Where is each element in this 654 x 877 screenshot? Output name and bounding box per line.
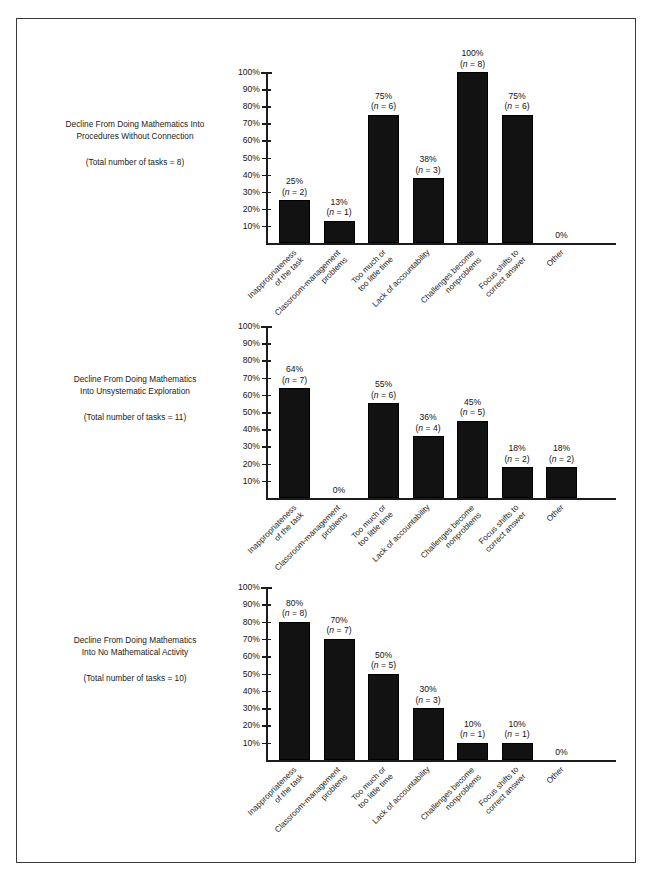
y-axis-tick — [262, 464, 271, 466]
y-axis-tick-label: 30% — [243, 188, 260, 197]
bar — [457, 743, 488, 760]
bar — [324, 221, 355, 243]
bar-percent: 100% — [441, 48, 505, 59]
chart-title-line: Decline From Doing Mathematics — [30, 373, 240, 385]
y-axis-tick-label: 30% — [243, 442, 260, 451]
bar-count: (n = 8) — [441, 59, 505, 70]
y-axis-tick — [262, 446, 271, 448]
bar-count: (n = 7) — [263, 375, 327, 386]
y-axis-tick-label: 100% — [238, 68, 260, 77]
y-axis-tick — [262, 743, 271, 745]
bar — [279, 388, 310, 498]
y-axis-tick — [262, 209, 271, 211]
x-axis-line — [266, 498, 616, 500]
y-axis-tick-label: 90% — [243, 600, 260, 609]
y-axis-tick — [262, 412, 271, 414]
bar — [457, 421, 488, 498]
bar-value-label: 38%(n = 3) — [396, 154, 460, 175]
bar-count: (n = 5) — [352, 660, 416, 671]
bar-percent: 50% — [352, 650, 416, 661]
bar — [324, 639, 355, 760]
bar-value-label: 18%(n = 2) — [530, 443, 594, 464]
chart-caption: Decline From Doing Mathematics IntoProce… — [30, 118, 240, 169]
y-axis-tick-label: 10% — [243, 477, 260, 486]
y-axis-tick — [262, 226, 271, 228]
bar-percent: 38% — [396, 154, 460, 165]
y-axis-tick-label: 20% — [243, 721, 260, 730]
y-axis-tick — [262, 691, 271, 693]
y-axis-tick — [261, 72, 272, 74]
y-axis-tick-label: 100% — [238, 583, 260, 592]
bar-value-label: 75%(n = 6) — [485, 91, 549, 112]
bar-count: (n = 5) — [441, 407, 505, 418]
y-axis-tick-label: 70% — [243, 635, 260, 644]
bar-count: (n = 7) — [307, 625, 371, 636]
y-axis-tick-label: 80% — [243, 356, 260, 365]
y-axis-tick — [262, 674, 271, 676]
chart-caption: Decline From Doing MathematicsInto No Ma… — [30, 634, 240, 685]
bar-value-label: 70%(n = 7) — [307, 615, 371, 636]
bar-value-label: 75%(n = 6) — [352, 91, 416, 112]
y-axis-tick-label: 50% — [243, 670, 260, 679]
bar — [279, 200, 310, 243]
y-axis-tick — [262, 429, 271, 431]
y-axis-tick-label: 80% — [243, 618, 260, 627]
chart-total-tasks: (Total number of tasks = 11) — [30, 411, 240, 423]
bar-percent: 25% — [263, 176, 327, 187]
y-axis-tick — [262, 360, 271, 362]
bar-value-label: 55%(n = 6) — [352, 379, 416, 400]
y-axis-tick — [261, 326, 272, 328]
bar-count: (n = 2) — [530, 454, 594, 465]
y-axis-tick-label: 50% — [243, 408, 260, 417]
bar-percent: 64% — [263, 364, 327, 375]
y-axis-tick — [262, 725, 271, 727]
figure-page: Decline From Doing Mathematics IntoProce… — [0, 0, 654, 877]
y-axis-tick-label: 30% — [243, 704, 260, 713]
chart-title-line: Decline From Doing Mathematics — [30, 634, 240, 646]
y-axis-tick — [262, 639, 271, 641]
bar-count: (n = 1) — [307, 207, 371, 218]
bar-count: (n = 4) — [396, 423, 460, 434]
bar-percent: 18% — [530, 443, 594, 454]
y-axis-tick-label: 100% — [238, 322, 260, 331]
bar-count: (n = 6) — [485, 101, 549, 112]
bar — [457, 72, 488, 243]
bar-value-label: 10%(n = 1) — [485, 719, 549, 740]
bar-percent: 70% — [307, 615, 371, 626]
y-axis-tick-label: 20% — [243, 460, 260, 469]
chart-caption: Decline From Doing MathematicsInto Unsys… — [30, 373, 240, 424]
y-axis-tick — [262, 481, 271, 483]
y-axis-tick-label: 70% — [243, 119, 260, 128]
bar-count: (n = 1) — [485, 729, 549, 740]
y-axis-tick-label: 50% — [243, 154, 260, 163]
bar-value-label: 64%(n = 7) — [263, 364, 327, 385]
y-axis-tick — [262, 158, 271, 160]
y-axis-tick-label: 10% — [243, 222, 260, 231]
y-axis-tick — [262, 89, 271, 91]
y-axis-tick-label: 60% — [243, 652, 260, 661]
y-axis-tick-label: 20% — [243, 205, 260, 214]
chart-total-tasks: (Total number of tasks = 10) — [30, 672, 240, 684]
bar-count: (n = 3) — [396, 695, 460, 706]
bar-value-label: 45%(n = 5) — [441, 397, 505, 418]
chart-title-line: Procedures Without Connection — [30, 130, 240, 142]
y-axis-tick-label: 60% — [243, 391, 260, 400]
bar-percent: 55% — [352, 379, 416, 390]
bar-value-label: 50%(n = 5) — [352, 650, 416, 671]
y-axis-tick-label: 80% — [243, 102, 260, 111]
bar-zero-label: 0% — [314, 485, 364, 495]
chart-title-line: Into No Mathematical Activity — [30, 646, 240, 658]
y-axis-tick-label: 60% — [243, 136, 260, 145]
bar-count: (n = 6) — [352, 101, 416, 112]
y-axis-tick — [261, 587, 272, 589]
x-axis-line — [266, 243, 616, 245]
bar — [368, 115, 399, 243]
y-axis-tick — [262, 622, 271, 624]
chart-title-line: Into Unsystematic Exploration — [30, 385, 240, 397]
bar-zero-label: 0% — [537, 230, 587, 240]
bar-value-label: 25%(n = 2) — [263, 176, 327, 197]
bar-value-label: 13%(n = 1) — [307, 197, 371, 218]
chart-total-tasks: (Total number of tasks = 8) — [30, 156, 240, 168]
bar — [502, 467, 533, 498]
y-axis-tick — [262, 656, 271, 658]
